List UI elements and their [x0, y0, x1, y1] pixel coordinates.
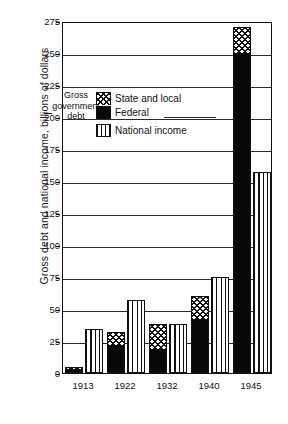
chart-legend: State and local Federal National income: [96, 92, 226, 138]
x-axis-tick-labels: 19131922193219401945: [62, 376, 272, 402]
annotation-line-3: debt: [50, 111, 102, 122]
plot-area: [62, 22, 272, 374]
legend-item-state-and-local: State and local: [96, 92, 226, 105]
x-tick-label: 1940: [198, 380, 219, 391]
x-tick-label: 1945: [240, 380, 261, 391]
x-tick-label: 1913: [72, 380, 93, 391]
y-tick-mark: [56, 22, 60, 23]
legend-label-federal: Federal: [115, 107, 149, 118]
bar-segment-state-and-local: [234, 28, 250, 53]
legend-rule: [164, 117, 216, 118]
x-tick-label: 1922: [114, 380, 135, 391]
gross-government-debt-annotation: Gross government debt: [50, 90, 102, 122]
y-tick-mark: [56, 150, 60, 151]
legend-item-national-income: National income: [96, 124, 226, 137]
legend-swatch-federal-icon: [96, 106, 111, 119]
y-tick-mark: [56, 310, 60, 311]
annotation-leader-line: [44, 113, 52, 114]
y-tick-mark: [56, 86, 60, 87]
legend-label-national-income: National income: [115, 125, 187, 136]
legend-swatch-state-and-local-icon: [96, 92, 111, 105]
annotation-line-1: Gross: [50, 90, 102, 101]
y-tick-mark: [56, 278, 60, 279]
bar-group: [63, 23, 273, 373]
y-axis-tick-labels: 0255075100125150175200225250275: [30, 0, 60, 424]
x-tick-label: 1932: [156, 380, 177, 391]
y-tick-mark: [56, 246, 60, 247]
bar-national-income: [253, 172, 271, 373]
legend-label-state-and-local: State and local: [115, 93, 181, 104]
bar-segment-federal: [234, 54, 250, 372]
y-tick-mark: [56, 342, 60, 343]
bar-chart: Gross debt and national income, billions…: [0, 0, 288, 424]
y-tick-mark: [56, 214, 60, 215]
y-tick-mark: [56, 54, 60, 55]
legend-swatch-national-income-icon: [96, 124, 111, 137]
y-tick-mark: [56, 374, 60, 375]
bar-gross-government-debt: [233, 27, 251, 373]
annotation-line-2: government: [50, 101, 102, 112]
y-tick-mark: [56, 182, 60, 183]
